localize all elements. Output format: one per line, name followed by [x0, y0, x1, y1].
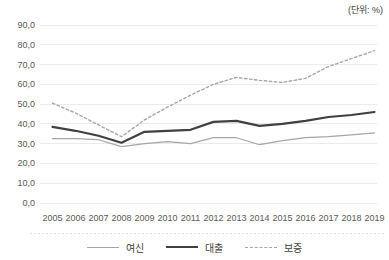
- x-tick-label: 2012: [203, 213, 223, 223]
- x-tick-label: 2018: [341, 213, 361, 223]
- legend-label-bojeung: 보증: [284, 240, 302, 255]
- legend-item-daechul: 대출: [166, 240, 223, 255]
- y-tick-label: 80,0: [17, 40, 35, 50]
- series-line-yeosin: [53, 133, 375, 147]
- x-tick-label: 2019: [364, 213, 384, 223]
- legend-label-yeosin: 여신: [126, 240, 144, 255]
- y-tick-label: 40,0: [17, 119, 35, 129]
- x-tick-label: 2008: [111, 213, 131, 223]
- legend-line-sample-yeosin: [87, 247, 119, 248]
- x-tick-label: 2015: [272, 213, 292, 223]
- x-tick-label: 2017: [318, 213, 338, 223]
- x-tick-label: 2013: [226, 213, 246, 223]
- line-chart-plot: 0,010,020,030,040,050,060,070,080,090,02…: [0, 0, 389, 260]
- x-tick-label: 2009: [134, 213, 154, 223]
- legend-item-bojeung: 보증: [245, 240, 302, 255]
- y-tick-label: 60,0: [17, 79, 35, 89]
- y-tick-label: 20,0: [17, 158, 35, 168]
- legend-item-yeosin: 여신: [87, 240, 144, 255]
- y-tick-label: 0,0: [22, 198, 35, 208]
- x-tick-label: 2006: [65, 213, 85, 223]
- chart-legend: 여신대출보증: [0, 237, 389, 257]
- y-tick-label: 30,0: [17, 139, 35, 149]
- x-tick-label: 2005: [42, 213, 62, 223]
- x-tick-label: 2011: [181, 213, 200, 223]
- x-tick-label: 2014: [249, 213, 269, 223]
- y-tick-label: 10,0: [17, 178, 35, 188]
- legend-label-daechul: 대출: [205, 240, 223, 255]
- legend-line-sample-daechul: [166, 246, 198, 248]
- x-tick-label: 2016: [295, 213, 315, 223]
- x-tick-label: 2010: [157, 213, 177, 223]
- line-chart-panel: (단위: %) 0,010,020,030,040,050,060,070,08…: [0, 0, 389, 260]
- x-tick-label: 2007: [88, 213, 108, 223]
- legend-line-sample-bojeung: [245, 247, 277, 248]
- y-tick-label: 90,0: [17, 20, 35, 30]
- y-tick-label: 50,0: [17, 99, 35, 109]
- y-tick-label: 70,0: [17, 60, 35, 70]
